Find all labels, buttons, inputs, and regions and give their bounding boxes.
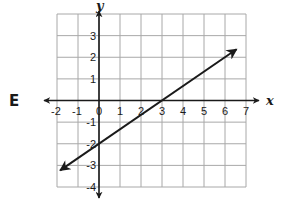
x-tick-label: -1	[72, 105, 82, 117]
data-line	[60, 49, 236, 170]
x-tick-label: 3	[159, 105, 165, 117]
x-tick-label: 7	[243, 105, 249, 117]
coordinate-graph: -2-101234567321-1-2-3-4 x y	[0, 0, 286, 209]
graphed-line	[60, 49, 236, 170]
y-tick-label: 2	[90, 51, 96, 63]
x-axis-label: x	[265, 93, 274, 108]
y-axis-label: y	[95, 0, 105, 13]
y-tick-label: -4	[86, 181, 96, 193]
x-tick-label: 6	[222, 105, 228, 117]
y-tick-label: 3	[90, 30, 96, 42]
tick-labels: -2-101234567321-1-2-3-4	[51, 30, 249, 193]
x-tick-label: 0	[96, 105, 102, 117]
x-tick-label: 5	[201, 105, 207, 117]
y-tick-label: -3	[86, 159, 96, 171]
x-tick-label: -2	[51, 105, 61, 117]
x-tick-label: 4	[180, 105, 186, 117]
y-tick-label: -1	[86, 116, 96, 128]
x-tick-label: 1	[117, 105, 123, 117]
y-tick-label: 1	[90, 73, 96, 85]
